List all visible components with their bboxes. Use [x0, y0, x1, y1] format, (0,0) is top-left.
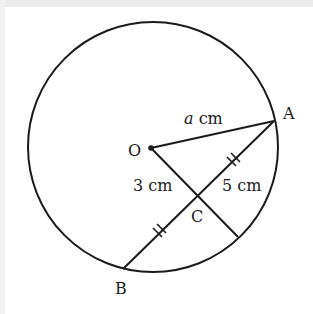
diagram-canvas: O A B C a cm 3 cm 5 cm	[0, 0, 313, 314]
label-oa-unit: cm	[194, 109, 223, 128]
tick-marks-cb	[153, 224, 166, 237]
label-point-c: C	[191, 207, 203, 226]
center-point-o	[148, 145, 154, 151]
label-oa-variable: a	[184, 109, 194, 128]
label-ac-length: 5 cm	[222, 176, 261, 195]
label-oc-length: 3 cm	[133, 176, 172, 195]
label-point-o: O	[128, 141, 141, 160]
chord-ab	[123, 121, 274, 269]
circle-diagram: O A B C a cm 3 cm 5 cm	[0, 0, 313, 314]
label-point-a: A	[282, 104, 295, 123]
label-oa-length: a cm	[184, 109, 223, 128]
label-point-b: B	[115, 279, 127, 298]
